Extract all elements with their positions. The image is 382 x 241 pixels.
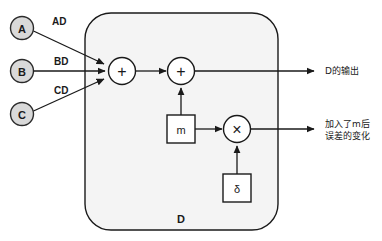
output-error-label-line1: 加入了m后 bbox=[325, 119, 370, 129]
input-node-a-label: A bbox=[18, 23, 26, 35]
edge-bd-label: BD bbox=[54, 56, 68, 67]
diagram-svg: D A AD B BD C CD + + D的输出 m bbox=[0, 0, 382, 241]
input-node-b-label: B bbox=[18, 66, 26, 78]
plus-icon-1: + bbox=[117, 63, 126, 80]
edge-cd-label: CD bbox=[54, 85, 68, 96]
input-node-c-label: C bbox=[18, 109, 26, 121]
output-error-label-line2: 误差的变化 bbox=[325, 130, 370, 141]
plus-icon-2: + bbox=[176, 63, 185, 80]
diagram-canvas: D A AD B BD C CD + + D的输出 m bbox=[0, 0, 382, 241]
multiply-icon: × bbox=[232, 121, 241, 138]
block-d-label: D bbox=[177, 213, 185, 225]
bias-box-m-label: m bbox=[176, 124, 185, 136]
delta-box-label: δ bbox=[234, 183, 240, 195]
edge-ad-label: AD bbox=[52, 16, 66, 27]
output-d-label: D的输出 bbox=[325, 65, 359, 76]
